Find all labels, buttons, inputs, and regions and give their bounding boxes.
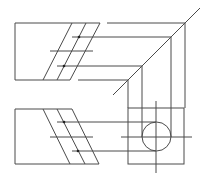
- intersection-dot: [63, 121, 66, 124]
- projection-diagram: [0, 0, 206, 183]
- mitre-line: [113, 8, 200, 95]
- intersection-dot: [78, 36, 81, 39]
- intersection-dot: [63, 65, 66, 68]
- side-view: [121, 101, 192, 173]
- mitre-45-line: [113, 8, 200, 95]
- diagram-svg: [0, 0, 206, 183]
- intersection-dot: [77, 150, 80, 153]
- top-view: [15, 23, 185, 80]
